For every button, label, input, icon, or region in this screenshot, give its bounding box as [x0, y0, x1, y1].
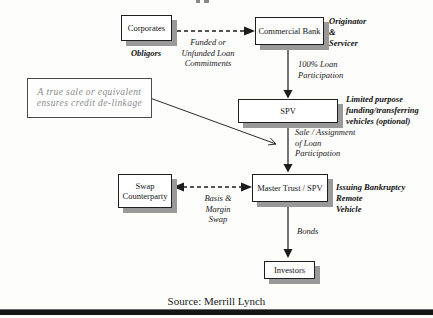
bottom-rule: [0, 309, 433, 315]
node-commercial-bank: Commercial Bank: [255, 17, 324, 45]
note-issuing-bankruptcy-remote: Issuing Bankruptcy Remote Vehicle: [336, 182, 433, 215]
arrow-master-trust-to-investors: [284, 201, 293, 258]
note-originator-servicer: Originator & Servicer: [329, 16, 399, 49]
arrow-swap-master-trust: [173, 183, 252, 192]
securitization-diagram: Corporates Commercial Bank SPV Master Tr…: [0, 0, 433, 318]
arrow-corporates-to-bank: [177, 27, 255, 36]
node-corporates: Corporates: [121, 15, 172, 41]
label-sale-assignment: Sale / Assignment of Loan Participation: [295, 127, 370, 159]
true-sale-callout: A true sale or equivalent ensures credit…: [27, 78, 152, 118]
label-basis-margin-swap: Basis & Margin Swap: [192, 193, 244, 225]
node-swap-counterparty: Swap Counterparty: [118, 174, 172, 208]
note-limited-purpose: Limited purpose funding/transferring veh…: [346, 94, 433, 127]
source-note: Source: Merrill Lynch: [0, 295, 433, 307]
label-bonds: Bonds: [297, 226, 337, 237]
arrow-spv-to-master-trust: [284, 122, 293, 173]
arrow-bank-to-spv: [284, 44, 293, 99]
node-spv: SPV: [238, 99, 338, 123]
label-100pct-loan-participation: 100% Loan Participation: [298, 59, 358, 80]
node-investors: Investors: [264, 261, 315, 279]
label-funded-unfunded-loan: Funded or Unfunded Loan Commitments: [172, 37, 244, 69]
note-obligors: Obligors: [118, 48, 174, 59]
node-master-trust-spv: Master Trust / SPV: [252, 174, 328, 202]
